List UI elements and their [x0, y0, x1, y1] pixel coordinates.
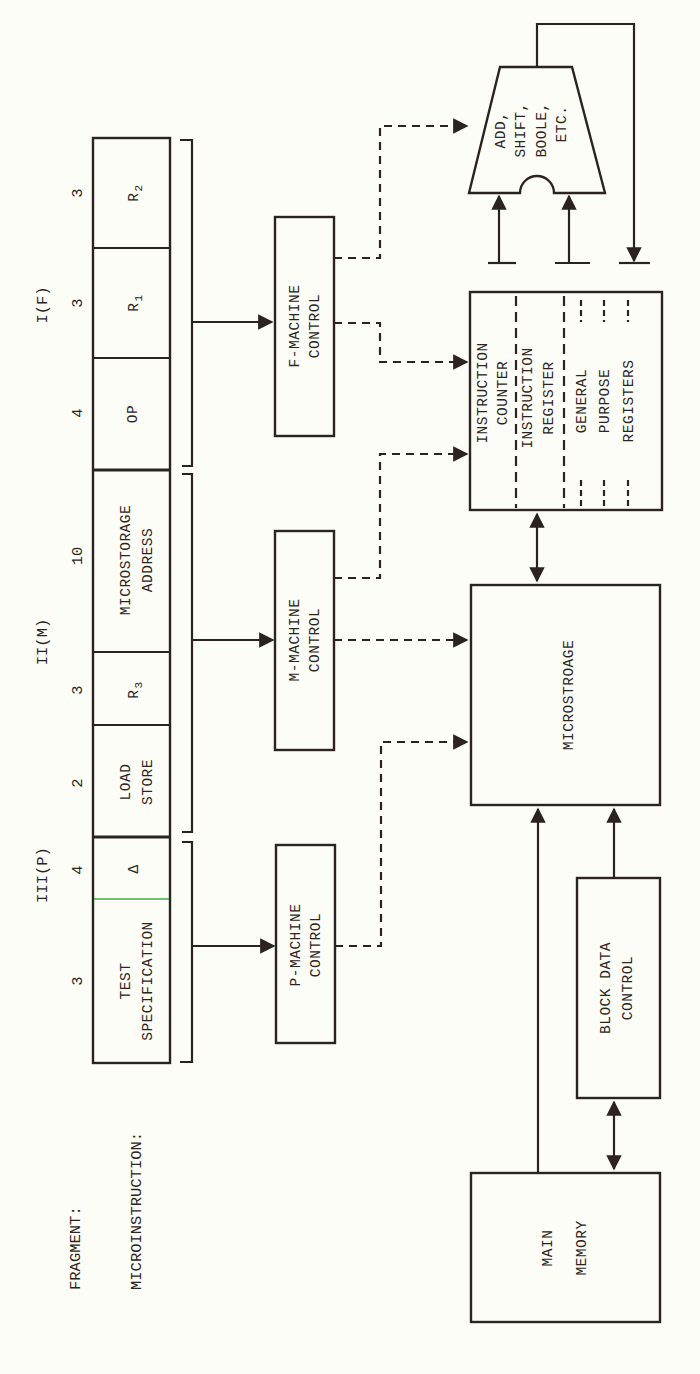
svg-text:P-MACHINE: P-MACHINE — [288, 904, 304, 987]
svg-text:INSTRUCTION: INSTRUCTION — [475, 342, 491, 443]
fragment-iii-label: III(P) — [34, 847, 52, 903]
instruction-counter: INSTRUCTION COUNTER — [475, 342, 511, 443]
field-load-store: LOAD STORE — [118, 759, 156, 805]
bits-r3: 3 — [69, 685, 87, 694]
svg-text:R3: R3 — [126, 681, 145, 698]
dashed-f-to-alu — [334, 126, 467, 258]
bracket-fragment-iii — [180, 842, 192, 1062]
svg-text:M-MACHINE: M-MACHINE — [287, 599, 303, 682]
svg-text:SHIFT,: SHIFT, — [513, 102, 529, 157]
bits-r1: 3 — [69, 298, 87, 307]
fragment-i-label: I(F) — [34, 286, 52, 323]
field-test-specification: TEST SPECIFICATION — [118, 921, 156, 1041]
svg-text:SPECIFICATION: SPECIFICATION — [140, 921, 156, 1041]
general-purpose-registers: GENERAL PURPOSE REGISTERS — [574, 360, 637, 443]
svg-text:ETC.: ETC. — [554, 106, 570, 143]
field-op: OP — [125, 405, 141, 423]
svg-text:MEMORY: MEMORY — [574, 1220, 590, 1275]
field-r3: R3 — [126, 681, 145, 698]
svg-text:CONTROL: CONTROL — [307, 294, 323, 358]
svg-text:LOAD: LOAD — [118, 764, 134, 801]
svg-text:REGISTERS: REGISTERS — [621, 360, 637, 443]
field-delta: Δ — [126, 864, 142, 873]
svg-text:ADD,: ADD, — [493, 112, 509, 149]
main-memory: MAIN MEMORY — [471, 1173, 660, 1322]
alu-output-feedback — [537, 24, 634, 261]
bit-counts: 3 3 4 10 3 2 4 3 — [69, 188, 87, 985]
svg-text:PURPOSE: PURPOSE — [597, 369, 613, 433]
bits-load-store: 2 — [69, 778, 87, 787]
svg-text:BLOCK DATA: BLOCK DATA — [598, 942, 614, 1034]
svg-text:CONTROL: CONTROL — [620, 956, 636, 1020]
svg-text:INSTRUCTION: INSTRUCTION — [520, 347, 536, 448]
bits-test-spec: 3 — [69, 976, 87, 985]
dashed-f-to-registers — [334, 323, 467, 362]
p-machine-control: P-MACHINE CONTROL — [276, 845, 335, 1043]
svg-text:TEST: TEST — [118, 963, 134, 1000]
alu-unit: ADD, SHIFT, BOOLE, ETC. — [469, 67, 605, 193]
field-r1: R1 — [126, 294, 145, 311]
svg-text:MICROSTORAGE: MICROSTORAGE — [118, 505, 134, 615]
svg-text:REGISTER: REGISTER — [541, 361, 557, 435]
microinstruction-label: MICROINSTRUCTION: — [128, 1132, 146, 1290]
bits-op: 4 — [69, 408, 87, 417]
fragment-label: FRAGMENT: — [67, 1206, 85, 1290]
bracket-fragment-ii — [182, 474, 192, 832]
bits-r2: 3 — [69, 188, 87, 197]
svg-text:F-MACHINE: F-MACHINE — [287, 285, 303, 368]
svg-text:GENERAL: GENERAL — [574, 369, 590, 433]
microstorage: MICROSTROAGE — [471, 585, 660, 805]
svg-text:MICROSTROAGE: MICROSTROAGE — [561, 640, 577, 750]
microprogram-architecture-diagram: FRAGMENT: MICROINSTRUCTION: I(F) II(M) I… — [0, 0, 700, 1374]
dashed-p-to-microstorage — [335, 742, 467, 946]
instruction-register: INSTRUCTION REGISTER — [520, 347, 557, 448]
svg-text:R2: R2 — [126, 184, 145, 201]
m-machine-control: M-MACHINE CONTROL — [275, 531, 334, 750]
bits-delta: 4 — [69, 865, 87, 874]
svg-text:ADDRESS: ADDRESS — [140, 528, 156, 592]
block-data-control: BLOCK DATA CONTROL — [577, 878, 660, 1098]
bits-microstorage-address: 10 — [69, 547, 87, 566]
svg-text:MAIN: MAIN — [540, 1230, 556, 1267]
f-machine-control: F-MACHINE CONTROL — [275, 217, 334, 436]
field-r2: R2 — [126, 184, 145, 201]
svg-text:CONTROL: CONTROL — [308, 913, 324, 977]
field-microstorage-address: MICROSTORAGE ADDRESS — [118, 505, 156, 615]
svg-text:CONTROL: CONTROL — [307, 608, 323, 672]
svg-text:COUNTER: COUNTER — [495, 361, 511, 425]
dashed-m-to-registers — [334, 454, 467, 578]
svg-text:STORE: STORE — [140, 759, 156, 805]
fragment-ii-label: II(M) — [34, 619, 52, 666]
svg-text:R1: R1 — [126, 294, 145, 311]
bracket-fragment-i — [180, 140, 192, 466]
svg-text:BOOLE,: BOOLE, — [534, 102, 550, 157]
